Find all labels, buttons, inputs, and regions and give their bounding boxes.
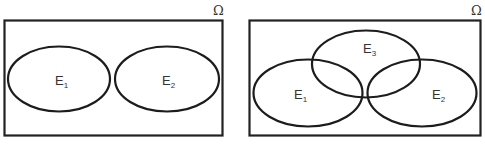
diagram-disjoint: Ω E1 E2 — [5, 3, 224, 136]
omega-label: Ω — [213, 3, 224, 18]
omega-label: Ω — [471, 3, 482, 18]
event-e1-label: E1 — [294, 87, 308, 104]
event-e3-label: E3 — [363, 41, 377, 58]
sample-space-rect — [250, 21, 481, 136]
event-e2-label: E2 — [162, 73, 176, 90]
venn-diagrams: Ω E1 E2 Ω E1 E2 E3 — [0, 0, 485, 148]
event-e2-label: E2 — [432, 87, 446, 104]
event-e1-ellipse — [254, 60, 363, 127]
event-e1-label: E1 — [55, 73, 69, 90]
diagram-overlapping: Ω E1 E2 E3 — [250, 3, 482, 136]
event-e2-ellipse — [368, 60, 477, 127]
sample-space-rect — [5, 21, 223, 136]
